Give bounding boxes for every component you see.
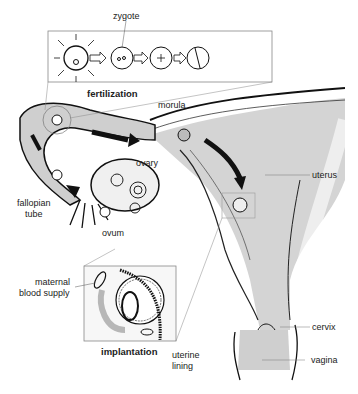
reproductive-diagram [0, 0, 358, 394]
label-maternal: maternal [35, 277, 70, 287]
label-cervix: cervix [312, 322, 336, 332]
label-zygote: zygote [113, 11, 140, 21]
label-blood-supply: blood supply [19, 288, 70, 298]
label-fertilization: fertilization [87, 89, 138, 99]
label-lining: lining [172, 361, 193, 371]
label-fallopian: fallopian [17, 198, 51, 208]
label-uterine: uterine [172, 350, 200, 360]
ovum [100, 207, 110, 217]
label-morula: morula [158, 100, 186, 110]
label-implantation: implantation [101, 347, 157, 357]
label-tube: tube [25, 209, 43, 219]
label-ovum: ovum [102, 228, 124, 238]
label-ovary: ovary [136, 158, 158, 168]
morula [178, 129, 190, 141]
label-vagina: vagina [311, 355, 338, 365]
label-uterus: uterus [312, 170, 337, 180]
